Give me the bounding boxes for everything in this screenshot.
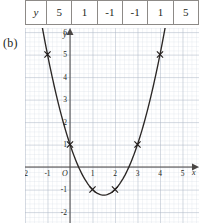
table-cell: 1: [72, 1, 97, 24]
table-cell: 1: [148, 1, 173, 24]
value-table: y 5 1 -1 -1 1 5: [25, 0, 199, 25]
x-tick-label: 4: [158, 169, 162, 178]
x-tick-label: -1: [44, 169, 50, 178]
y-tick-label: -1: [61, 185, 67, 194]
y-tick-label: -2: [61, 208, 67, 217]
y-tick-label: 4: [63, 73, 67, 82]
parabola-chart: y x O -2 -1 1 2 3 4 5 6 5 4 3 2 1 -1 -2: [25, 28, 199, 223]
y-tick-label: 3: [63, 95, 67, 104]
table-cell: -1: [98, 1, 123, 24]
x-tick-label: 1: [91, 169, 95, 178]
y-tick-label: 5: [63, 50, 67, 59]
part-label: (b): [3, 36, 18, 51]
x-tick-label: -2: [25, 169, 28, 178]
table-cell: 5: [174, 1, 199, 24]
table-cell: -1: [123, 1, 148, 24]
table-cell: 5: [47, 1, 72, 24]
grid-major: [25, 28, 199, 223]
y-tick-label: 6: [63, 28, 67, 37]
x-axis-label: x: [191, 168, 196, 177]
y-tick-label: 1: [63, 140, 67, 149]
x-tick-label: 2: [113, 169, 117, 178]
x-tick-label: 3: [136, 169, 140, 178]
origin-label: O: [62, 169, 68, 178]
x-tick-label: 5: [181, 169, 185, 178]
table-row-header: y: [25, 1, 47, 24]
graph-panel: y x O -2 -1 1 2 3 4 5 6 5 4 3 2 1 -1 -2: [25, 28, 199, 223]
